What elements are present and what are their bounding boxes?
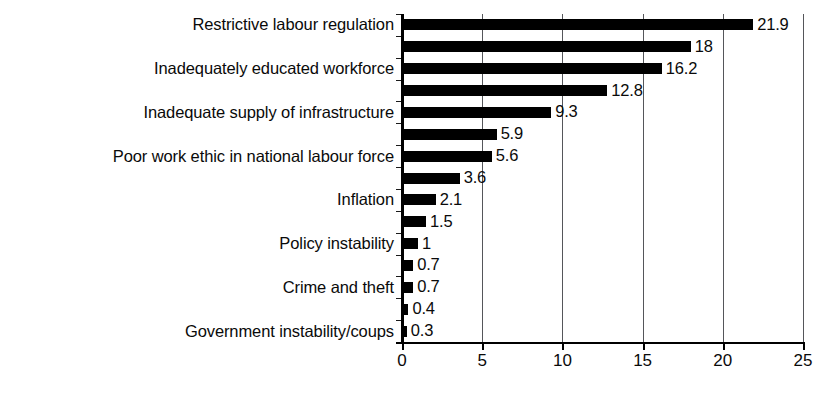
bar-value-label: 0.3 xyxy=(407,322,433,339)
bar-value-label: 5.9 xyxy=(497,126,523,143)
category-tick xyxy=(396,58,401,59)
bar-value-label: 2.1 xyxy=(436,191,462,208)
bar-row: 12.8 xyxy=(402,85,803,96)
value-tick-label: 25 xyxy=(794,352,813,369)
category-axis-spine xyxy=(396,14,403,342)
bar xyxy=(402,238,418,249)
category-tick xyxy=(396,276,401,277)
value-tick xyxy=(562,344,564,350)
category-tick xyxy=(396,36,401,37)
category-tick xyxy=(396,320,401,321)
bar-row: 1 xyxy=(402,238,803,249)
category-tick xyxy=(396,255,401,256)
category-axis-labels: Restrictive labour regulationInadequatel… xyxy=(0,0,394,396)
bar-value-label: 1.5 xyxy=(426,213,452,230)
category-label: Crime and theft xyxy=(283,279,394,296)
bar xyxy=(402,151,492,162)
bar-value-label: 3.6 xyxy=(460,169,486,186)
axis-spine-line xyxy=(401,14,403,342)
bar-row: 3.6 xyxy=(402,173,803,184)
value-tick xyxy=(482,344,484,350)
value-tick xyxy=(643,344,645,350)
category-tick xyxy=(396,101,401,102)
bar-value-label: 0.7 xyxy=(413,279,439,296)
bar-row: 2.1 xyxy=(402,194,803,205)
bar-row: 0.4 xyxy=(402,304,803,315)
category-label: Inadequate supply of infrastructure xyxy=(143,104,394,121)
category-label: Inflation xyxy=(337,191,394,208)
value-axis-tick-labels: 0510152025 xyxy=(402,352,803,376)
value-tick xyxy=(803,344,805,350)
category-tick xyxy=(396,123,401,124)
bar-value-label: 12.8 xyxy=(607,82,642,99)
category-tick xyxy=(396,80,401,81)
category-tick xyxy=(396,145,401,146)
bar-value-label: 16.2 xyxy=(662,60,697,77)
category-tick xyxy=(396,189,401,190)
bar-value-label: 0.7 xyxy=(413,257,439,274)
bar-value-label: 0.4 xyxy=(408,301,434,318)
category-tick xyxy=(396,211,401,212)
bar-row: 21.9 xyxy=(402,19,803,30)
bar xyxy=(402,282,413,293)
value-tick-label: 10 xyxy=(553,352,572,369)
bar xyxy=(402,216,426,227)
value-tick-label: 15 xyxy=(633,352,652,369)
bar xyxy=(402,41,691,52)
bar-value-label: 5.6 xyxy=(492,148,518,165)
category-label: Inadequately educated workforce xyxy=(154,60,394,77)
bar xyxy=(402,129,497,140)
bar-value-label: 21.9 xyxy=(753,16,788,32)
bar xyxy=(402,260,413,271)
bar-row: 16.2 xyxy=(402,63,803,74)
bar xyxy=(402,194,436,205)
value-tick-label: 20 xyxy=(713,352,732,369)
bar-row: 0.3 xyxy=(402,326,803,337)
category-tick xyxy=(396,298,401,299)
category-label: Restrictive labour regulation xyxy=(192,16,394,33)
bar xyxy=(402,63,662,74)
value-tick-label: 5 xyxy=(477,352,486,369)
bar-row: 5.6 xyxy=(402,151,803,162)
value-tick-label: 0 xyxy=(397,352,406,369)
category-tick xyxy=(396,14,401,15)
value-tick xyxy=(723,344,725,350)
gridline-25 xyxy=(803,14,804,342)
bar xyxy=(402,85,607,96)
bar-row: 9.3 xyxy=(402,107,803,118)
bar-value-label: 1 xyxy=(418,235,431,252)
category-tick xyxy=(396,233,401,234)
category-label: Poor work ethic in national labour force xyxy=(113,148,394,165)
bar xyxy=(402,173,460,184)
value-tick xyxy=(402,344,404,350)
bar-row: 5.9 xyxy=(402,129,803,140)
category-tick xyxy=(396,167,401,168)
bar-value-label: 18 xyxy=(691,38,713,55)
bar-row: 1.5 xyxy=(402,216,803,227)
category-label: Policy instability xyxy=(279,235,394,252)
plot-area: 21.91816.212.89.35.95.63.62.11.510.70.70… xyxy=(402,14,803,342)
bar-value-label: 9.3 xyxy=(551,104,577,121)
bar-row: 0.7 xyxy=(402,282,803,293)
bar xyxy=(402,19,753,30)
category-label: Government instability/coups xyxy=(185,323,394,340)
bar xyxy=(402,107,551,118)
bar-row: 18 xyxy=(402,41,803,52)
bar-row: 0.7 xyxy=(402,260,803,271)
horizontal-bar-chart: Restrictive labour regulationInadequatel… xyxy=(0,0,834,396)
value-axis-ticks xyxy=(402,344,803,351)
